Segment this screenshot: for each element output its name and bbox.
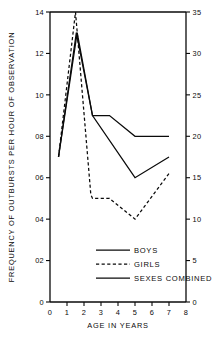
legend-label-boys: BOYS: [134, 246, 158, 255]
y-ticklabel-right-5: 5: [193, 256, 197, 265]
x-ticklabel-2: 2: [82, 308, 86, 317]
x-ticklabel-6: 6: [150, 308, 154, 317]
y-ticklabel-left-14: 14: [35, 8, 44, 17]
y-ticklabel-left-06: 06: [35, 173, 44, 182]
x-ticklabel-8: 8: [184, 308, 188, 317]
y-ticklabel-right-15: 15: [193, 173, 202, 182]
chart-figure: 00204060810121405101520253035012345678AG…: [0, 0, 219, 339]
legend-label-sexes-combined: SEXES COMBINED: [134, 274, 212, 283]
series-line-sexes-combined: [59, 33, 170, 178]
y-ticklabel-left-02: 02: [35, 256, 44, 265]
legend-label-girls: GIRLS: [134, 260, 160, 269]
chart-canvas: 00204060810121405101520253035012345678AG…: [0, 0, 219, 339]
y-ticklabel-left-08: 08: [35, 132, 44, 141]
x-ticklabel-7: 7: [167, 308, 171, 317]
y-ticklabel-left-12: 12: [35, 49, 44, 58]
y-ticklabel-right-0: 0: [193, 298, 197, 307]
y-ticklabel-right-20: 20: [193, 132, 202, 141]
y-axis-title: FREQUENCY OF OUTBURSTS PER HOUR OF OBSER…: [7, 32, 16, 283]
x-ticklabel-4: 4: [116, 308, 120, 317]
y-ticklabel-left-10: 10: [35, 91, 44, 100]
x-ticklabel-5: 5: [133, 308, 137, 317]
x-axis-title: AGE IN YEARS: [87, 321, 149, 330]
x-ticklabel-0: 0: [48, 308, 52, 317]
x-ticklabel-1: 1: [65, 308, 69, 317]
y-ticklabel-left-04: 04: [35, 215, 44, 224]
y-ticklabel-right-10: 10: [193, 215, 202, 224]
y-ticklabel-right-30: 30: [193, 49, 202, 58]
x-ticklabel-3: 3: [99, 308, 103, 317]
y-ticklabel-left-0: 0: [40, 298, 44, 307]
y-ticklabel-right-25: 25: [193, 91, 202, 100]
y-ticklabel-right-35: 35: [193, 8, 202, 17]
series-line-boys: [59, 33, 170, 157]
